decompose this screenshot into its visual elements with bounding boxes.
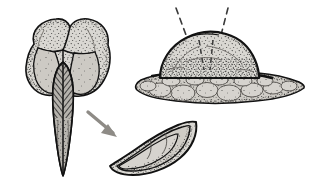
illustration-canvas [0, 0, 310, 188]
figure-plate [0, 0, 310, 188]
